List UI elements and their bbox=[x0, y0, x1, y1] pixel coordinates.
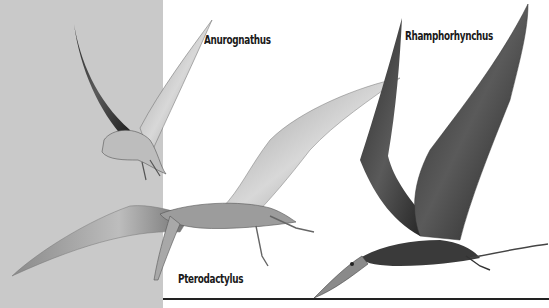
pterodactylus-figure bbox=[12, 78, 400, 280]
baseline-rule bbox=[163, 298, 549, 300]
label-anurognathus: Anurognathus bbox=[204, 33, 271, 47]
label-pterodactylus: Pterodactylus bbox=[178, 272, 243, 286]
label-rhamphorhynchus: Rhamphorhynchus bbox=[405, 29, 493, 43]
anurognathus-figure bbox=[74, 20, 212, 180]
pterosaur-illustration bbox=[0, 0, 549, 308]
rhamphorhynchus-figure bbox=[314, 4, 548, 298]
